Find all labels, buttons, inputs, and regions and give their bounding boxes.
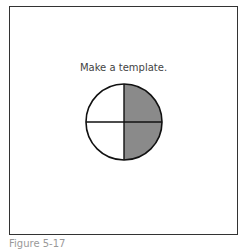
prompt-text: Make a template. xyxy=(0,62,247,73)
figure-caption: Figure 5-17 xyxy=(9,238,65,249)
fraction-circle xyxy=(84,82,164,162)
